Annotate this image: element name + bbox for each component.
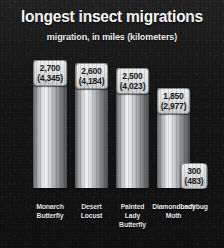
value-km-painted-lady-butterfly: (4,023) [120,81,146,91]
value-km-monarch-butterfly: (4,345) [37,73,63,83]
bar-column-ladybug: 300 (483) Ladybug [181,52,207,248]
value-label-desert-locust: 2,600 (4,184) [75,63,109,89]
category-label-monarch-butterfly: Monarch Butterfly [28,202,72,220]
bar-column-monarch-butterfly: 2,700 (4,345) Monarch Butterfly [33,52,67,248]
category-line: Locust [70,211,113,220]
value-label-monarch-butterfly: 2,700 (4,345) [33,60,67,86]
category-label-desert-locust: Desert Locust [70,202,113,220]
category-label-painted-lady-butterfly: Painted Lady Butterfly [111,202,154,229]
category-line: Painted [111,202,154,211]
category-line: Ladybug [176,202,212,211]
chart-plot-area: 2,700 (4,345) Monarch Butterfly 2,600 (4… [0,52,224,248]
category-line: Lady [111,211,154,220]
chart-subtitle: migration, in miles (kilometers) [6,31,219,42]
chart-title: longest insect migrations [7,7,218,25]
category-line: Monarch [28,202,72,211]
value-km-ladybug: (483) [185,176,204,186]
category-line: Butterfly [111,220,154,229]
value-label-ladybug: 300 (483) [181,163,208,189]
category-line: Desert [70,202,113,211]
category-label-ladybug: Ladybug [176,202,212,211]
bar-column-desert-locust: 2,600 (4,184) Desert Locust [75,52,108,248]
value-label-painted-lady-butterfly: 2,500 (4,023) [116,68,150,94]
value-miles-painted-lady-butterfly: 2,500 [122,71,142,81]
value-miles-monarch-butterfly: 2,700 [40,63,60,73]
infographic-chart: longest insect migrations migration, in … [0,0,224,248]
category-line: Butterfly [28,211,72,220]
value-miles-ladybug: 300 [187,166,201,176]
bar-column-painted-lady-butterfly: 2,500 (4,023) Painted Lady Butterfly [116,52,149,248]
value-miles-desert-locust: 2,600 [81,66,101,76]
value-km-desert-locust: (4,184) [79,76,105,86]
